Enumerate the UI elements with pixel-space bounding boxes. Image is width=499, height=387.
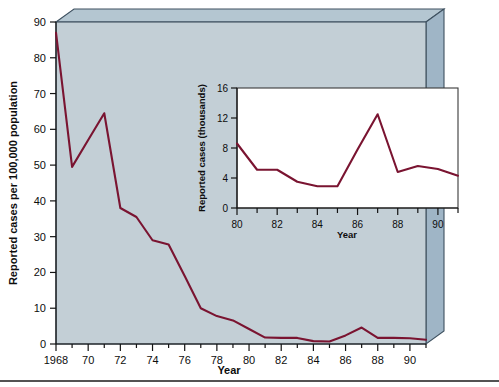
- main-y-tick-label: 80: [34, 52, 46, 64]
- main-y-tick-group: [50, 22, 56, 344]
- inset-y-axis-title: Reported cases (thousands): [196, 84, 207, 212]
- inset-x-tick-label: 84: [312, 219, 324, 230]
- inset-y-tick-label: 12: [217, 113, 229, 124]
- main-y-tick-label: 10: [34, 302, 46, 314]
- main-x-tick-label: 88: [372, 354, 384, 366]
- main-x-tick-label: 86: [339, 354, 351, 366]
- inset-y-tick-label: 0: [222, 203, 228, 214]
- inset-x-tick-label: 88: [392, 219, 404, 230]
- main-y-ticklabel-group: 0102030405060708090: [34, 16, 46, 350]
- main-x-tick-label: 80: [243, 354, 255, 366]
- main-x-tick-label: 90: [404, 354, 416, 366]
- main-y-tick-label: 70: [34, 88, 46, 100]
- main-y-tick-label: 50: [34, 159, 46, 171]
- main-x-tick-label: 84: [307, 354, 319, 366]
- inset-x-axis-title: Year: [337, 229, 357, 240]
- main-x-tick-label: 76: [179, 354, 191, 366]
- inset-plot-background: [237, 88, 458, 208]
- main-x-tick-group: [56, 344, 426, 351]
- panel-top-face: [56, 9, 444, 22]
- main-y-tick-label: 20: [34, 266, 46, 278]
- chart-svg: 0102030405060708090 Reported cases per 1…: [0, 0, 499, 387]
- main-y-axis-title: Reported cases per 100,000 population: [7, 81, 19, 285]
- inset-y-tick-label: 4: [222, 173, 228, 184]
- main-x-tick-label: 82: [275, 354, 287, 366]
- inset-x-tick-label: 90: [432, 219, 444, 230]
- main-y-tick-label: 40: [34, 195, 46, 207]
- main-x-tick-label: 70: [82, 354, 94, 366]
- main-y-tick-label: 0: [40, 338, 46, 350]
- main-y-tick-label: 90: [34, 16, 46, 28]
- main-y-tick-label: 30: [34, 231, 46, 243]
- main-x-tick-label: 72: [114, 354, 126, 366]
- inset-x-tick-label: 80: [231, 219, 243, 230]
- main-y-tick-label: 60: [34, 123, 46, 135]
- main-x-tick-label: 74: [146, 354, 158, 366]
- main-y-axis: 0102030405060708090 Reported cases per 1…: [7, 16, 56, 350]
- main-x-axis-title: Year: [217, 364, 241, 376]
- inset-y-tick-label: 8: [222, 143, 228, 154]
- main-x-tick-label: 1968: [44, 354, 68, 366]
- inset-x-tick-label: 82: [272, 219, 284, 230]
- inset-y-tick-label: 16: [217, 83, 229, 94]
- main-x-axis: 19687072747678808284868890 Year: [44, 344, 426, 376]
- figure-container: 0102030405060708090 Reported cases per 1…: [0, 0, 499, 387]
